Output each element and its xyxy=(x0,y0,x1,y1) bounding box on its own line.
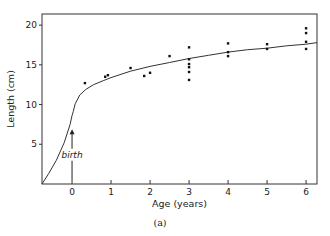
data-point xyxy=(266,43,268,45)
data-point xyxy=(305,32,307,34)
data-point xyxy=(84,82,86,84)
data-point xyxy=(143,75,145,77)
data-point xyxy=(227,42,229,44)
data-point xyxy=(188,46,190,48)
x-axis-label: Age (years) xyxy=(152,198,207,209)
data-point xyxy=(149,72,151,74)
data-point xyxy=(188,71,190,73)
data-point xyxy=(188,58,190,60)
x-tick-label: 0 xyxy=(69,187,75,197)
figure-caption: (a) xyxy=(153,217,166,228)
data-point xyxy=(107,74,109,76)
x-tick-label: 6 xyxy=(303,187,309,197)
x-axis-ticks: 0123456 xyxy=(69,180,309,197)
y-tick-label: 15 xyxy=(26,60,37,70)
data-point xyxy=(227,51,229,53)
data-point xyxy=(104,76,106,78)
data-point xyxy=(168,55,170,57)
y-tick-label: 20 xyxy=(26,20,38,30)
data-point xyxy=(305,48,307,50)
annotation-layer: birth xyxy=(61,129,82,180)
data-point xyxy=(188,79,190,81)
growth-curve-layer xyxy=(42,43,317,184)
growth-chart: 0123456 5101520 birth Age (years) Length… xyxy=(0,0,330,236)
x-tick-label: 4 xyxy=(225,187,231,197)
data-point xyxy=(305,41,307,43)
data-point xyxy=(266,48,268,50)
data-point xyxy=(188,66,190,68)
y-tick-label: 5 xyxy=(31,139,37,149)
x-tick-label: 2 xyxy=(147,187,153,197)
y-tick-label: 10 xyxy=(26,100,38,110)
plot-frame xyxy=(42,14,317,184)
data-point xyxy=(227,55,229,57)
y-axis-label: Length (cm) xyxy=(5,70,16,128)
growth-curve-segment xyxy=(42,43,317,184)
data-point xyxy=(305,27,307,29)
data-point xyxy=(129,67,131,69)
birth-arrow-head xyxy=(70,129,75,134)
y-axis-ticks: 5101520 xyxy=(26,20,42,149)
birth-annotation: birth xyxy=(61,150,82,160)
x-tick-label: 5 xyxy=(264,187,270,197)
data-point xyxy=(188,63,190,65)
x-tick-label: 1 xyxy=(108,187,114,197)
x-tick-label: 3 xyxy=(186,187,192,197)
